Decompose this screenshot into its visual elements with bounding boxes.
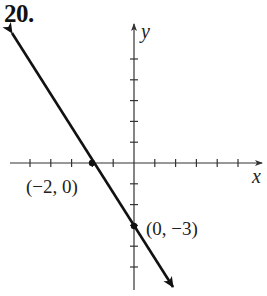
y-axis-label: y bbox=[139, 20, 150, 43]
x-axis-label: x bbox=[251, 165, 261, 187]
point-label-y-intercept: (0, −3) bbox=[146, 218, 198, 240]
point-y-intercept bbox=[131, 223, 137, 229]
coordinate-plane: x y (−2, 0) (0, −3) bbox=[0, 0, 267, 296]
point-x-intercept bbox=[89, 160, 95, 166]
point-label-x-intercept: (−2, 0) bbox=[26, 176, 78, 198]
